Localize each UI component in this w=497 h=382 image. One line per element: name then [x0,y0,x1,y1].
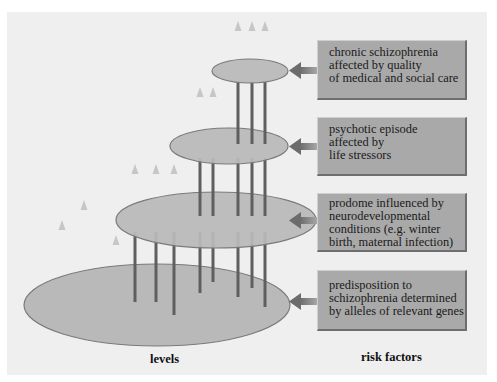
risk-factor-text: of medical and social care [329,72,465,85]
level-3-ellipse [170,128,288,164]
arrow-level-1-icon [289,293,317,310]
level-2-ellipse [116,192,316,248]
risk-factor-text: life stressors [329,149,465,162]
risk-factor-box-level-3: psychotic episode affected by life stres… [317,117,467,176]
risk-factor-text: birth, maternal infection) [329,236,465,249]
risk-factor-box-level-2: prodome influenced by neurodevelopmental… [317,193,467,252]
risk-factor-box-level-4: chronic schizophrenia affected by qualit… [317,40,467,100]
arrow-level-3-icon [289,138,317,155]
arrow-level-4-icon [289,62,317,79]
risk-factor-text: by alleles of relevant genes [329,305,465,318]
risk-factors-label: risk factors [361,350,422,365]
levels-label: levels [150,352,179,367]
risk-factor-box-level-1: predisposition to schizophrenia determin… [317,270,467,331]
level-4-ellipse [212,59,288,83]
